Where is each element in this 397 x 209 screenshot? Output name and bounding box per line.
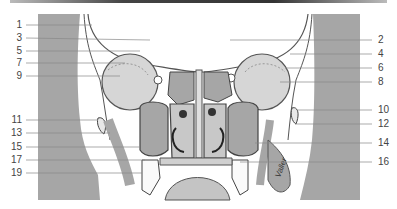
label-5: 5 [0,46,22,56]
right-ethmoid-cells [204,72,232,102]
label-13: 13 [0,128,22,138]
label-2: 2 [378,35,384,45]
left-upper-molar [142,160,160,195]
label-15: 15 [0,142,22,152]
label-8: 8 [378,77,384,87]
label-12: 12 [378,119,389,129]
label-3: 3 [0,33,22,43]
left-ethmoid-cells [168,72,194,105]
label-14: 14 [378,138,389,148]
right-upper-molar [232,160,248,195]
label-9: 9 [0,71,22,81]
label-7: 7 [0,58,22,68]
tongue [165,178,230,201]
label-17: 17 [0,155,22,165]
label-19: 19 [0,168,22,178]
right-temporalis-muscle [300,14,360,200]
hard-palate [160,158,232,165]
label-4: 4 [378,49,384,59]
right-maxillary-sinus [228,102,258,156]
label-16: 16 [378,157,389,167]
label-11: 11 [0,115,22,125]
left-temporalis-muscle [38,14,100,200]
label-1: 1 [0,20,22,30]
nasal-septum [196,70,202,158]
left-coronoid-process [97,118,105,134]
label-10: 10 [378,105,389,115]
right-coronoid-process [291,108,298,124]
sinus-cross-section-diagram: Valler [0,0,397,209]
left-maxillary-sinus [140,102,168,156]
label-6: 6 [378,63,384,73]
